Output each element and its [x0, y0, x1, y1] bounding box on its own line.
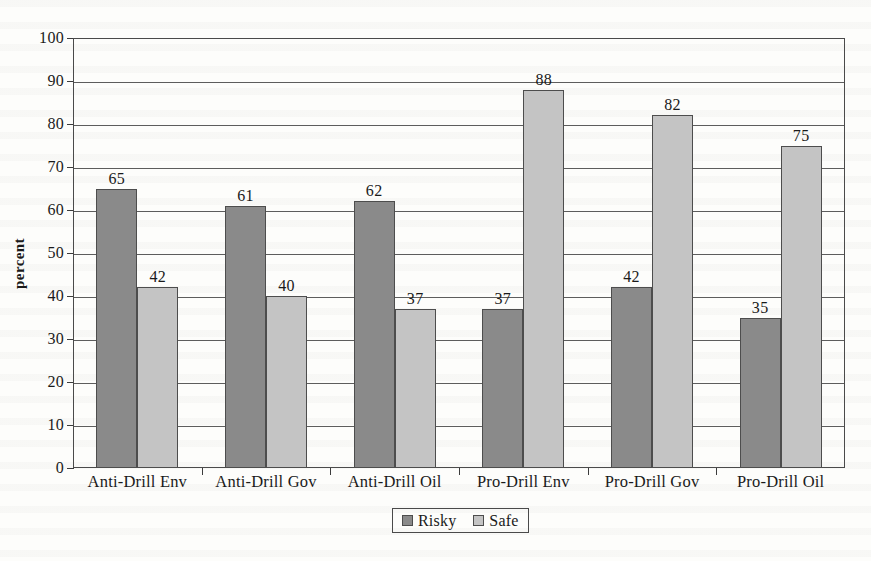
y-axis: 0102030405060708090100: [0, 0, 64, 561]
bar-safe-anti-drill-gov: 40: [266, 296, 307, 468]
x-tick-label-anti-drill-env: Anti-Drill Env: [88, 474, 188, 491]
y-tick-label: 40: [47, 288, 64, 304]
y-tick-label: 30: [47, 331, 64, 347]
bar-value-label: 62: [366, 183, 383, 199]
y-tick-label: 80: [47, 116, 64, 132]
legend-label: Risky: [418, 513, 456, 529]
x-tick-label-pro-drill-env: Pro-Drill Env: [477, 474, 570, 491]
legend-label: Safe: [489, 513, 518, 529]
bar-group: 3788: [482, 38, 564, 468]
bar-value-label: 65: [109, 171, 126, 187]
y-tick-label: 50: [47, 245, 64, 261]
legend: RiskySafe: [392, 508, 529, 533]
x-tick-mark: [588, 468, 589, 475]
bar-value-label: 37: [407, 291, 424, 307]
bar-group: 6140: [225, 38, 307, 468]
bar-value-label: 40: [278, 278, 295, 294]
legend-swatch-risky-icon: [402, 515, 413, 526]
y-tick-label: 70: [47, 159, 64, 175]
bar-value-label: 61: [237, 188, 254, 204]
legend-item-safe: Safe: [473, 513, 518, 529]
bars-layer: 654261406237378842823575: [73, 38, 845, 468]
y-tick-label: 90: [47, 73, 64, 89]
y-tick-mark: [67, 468, 74, 469]
bar-value-label: 42: [150, 269, 167, 285]
bar-value-label: 88: [536, 72, 553, 88]
bar-risky-anti-drill-gov: 61: [225, 206, 266, 468]
bar-risky-anti-drill-env: 65: [96, 189, 137, 469]
x-tick-label-anti-drill-gov: Anti-Drill Gov: [215, 474, 316, 491]
bar-risky-anti-drill-oil: 62: [354, 201, 395, 468]
bar-chart: percent 0102030405060708090100 654261406…: [0, 0, 871, 561]
bar-safe-anti-drill-env: 42: [137, 287, 178, 468]
bar-value-label: 37: [495, 291, 512, 307]
x-tick-mark: [202, 468, 203, 475]
bar-group: 6237: [354, 38, 436, 468]
y-tick-label: 60: [47, 202, 64, 218]
x-tick-label-anti-drill-oil: Anti-Drill Oil: [348, 474, 442, 491]
bar-safe-pro-drill-oil: 75: [781, 146, 822, 469]
legend-item-risky: Risky: [402, 513, 456, 529]
legend-swatch-safe-icon: [473, 515, 484, 526]
x-tick-label-pro-drill-gov: Pro-Drill Gov: [605, 474, 700, 491]
x-tick-mark: [330, 468, 331, 475]
y-tick-label: 100: [39, 30, 64, 46]
bar-group: 6542: [96, 38, 178, 468]
y-tick-label: 20: [47, 374, 64, 390]
bar-value-label: 82: [664, 97, 681, 113]
bar-risky-pro-drill-oil: 35: [740, 318, 781, 469]
bar-group: 3575: [740, 38, 822, 468]
x-tick-label-pro-drill-oil: Pro-Drill Oil: [737, 474, 824, 491]
bar-value-label: 42: [623, 269, 640, 285]
bar-safe-pro-drill-env: 88: [523, 90, 564, 468]
bar-group: 4282: [611, 38, 693, 468]
bar-value-label: 35: [752, 300, 769, 316]
x-tick-mark: [716, 468, 717, 475]
bar-safe-pro-drill-gov: 82: [652, 115, 693, 468]
x-tick-mark: [459, 468, 460, 475]
bar-value-label: 75: [793, 128, 810, 144]
y-tick-label: 0: [56, 460, 64, 476]
y-tick-label: 10: [47, 417, 64, 433]
bar-risky-pro-drill-env: 37: [482, 309, 523, 468]
bar-risky-pro-drill-gov: 42: [611, 287, 652, 468]
bar-safe-anti-drill-oil: 37: [395, 309, 436, 468]
